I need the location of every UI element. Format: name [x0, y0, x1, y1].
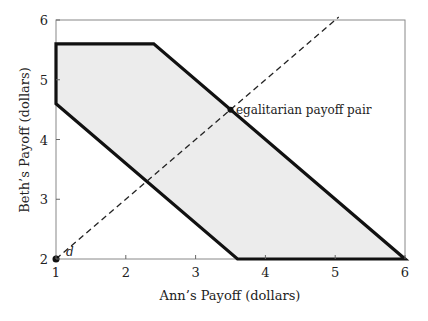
y-tick-label: 6: [40, 13, 48, 28]
y-tick-label: 5: [40, 73, 48, 88]
y-tick-label: 2: [40, 252, 48, 267]
x-axis-label: Ann’s Payoff (dollars): [159, 288, 301, 303]
y-tick-label: 3: [40, 192, 48, 207]
payoff-chart: 12345623456 Ann’s Payoff (dollars) Beth’…: [0, 0, 428, 321]
feasible-region-polygon: [56, 44, 405, 259]
x-tick-label: 2: [122, 265, 130, 280]
disagreement-point-label: d: [66, 245, 74, 259]
feasible-region: [56, 44, 405, 259]
x-tick-label: 1: [52, 265, 60, 280]
y-tick-label: 4: [40, 133, 48, 148]
egalitarian-point-label: egalitarian payoff pair: [236, 103, 372, 117]
x-tick-label: 6: [401, 265, 409, 280]
egalitarian-point-marker: [228, 107, 234, 113]
y-axis-label: Beth’s Payoff (dollars): [17, 67, 32, 212]
x-tick-label: 4: [261, 265, 269, 280]
x-tick-label: 3: [191, 265, 199, 280]
x-tick-label: 5: [331, 265, 339, 280]
